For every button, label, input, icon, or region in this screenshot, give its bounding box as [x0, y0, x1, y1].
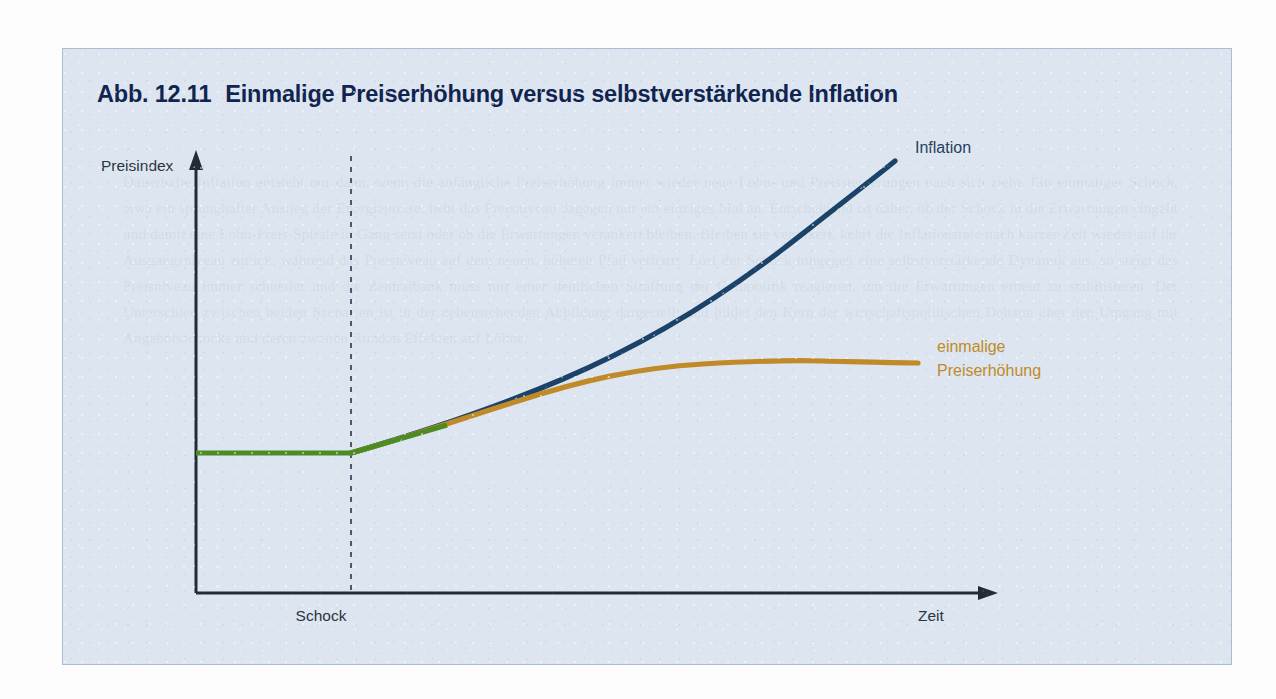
series-line-einmalige-preiserhoehung — [351, 361, 918, 453]
figure-panel: Dauerhafte Inflation entsteht nur dann, … — [62, 48, 1232, 665]
series-line-inflation — [351, 161, 895, 453]
page-background: Dauerhafte Inflation entsteht nur dann, … — [0, 0, 1276, 699]
axis-group — [189, 150, 998, 600]
series-label-einmalige-line1: einmalige — [937, 338, 1006, 355]
series-line-shared-green — [196, 425, 447, 453]
x-axis-label: Zeit — [918, 607, 945, 624]
y-axis-arrowhead — [189, 150, 203, 170]
series-label-inflation: Inflation — [915, 139, 971, 156]
series-label-einmalige-line2: Preiserhöhung — [937, 362, 1041, 379]
y-axis-label: Preisindex — [101, 157, 174, 174]
shock-label: Schock — [296, 607, 347, 624]
x-axis-arrowhead — [978, 586, 998, 600]
chart-plot-area: Preisindex Zeit Schock Inflation einmali… — [63, 49, 1233, 666]
